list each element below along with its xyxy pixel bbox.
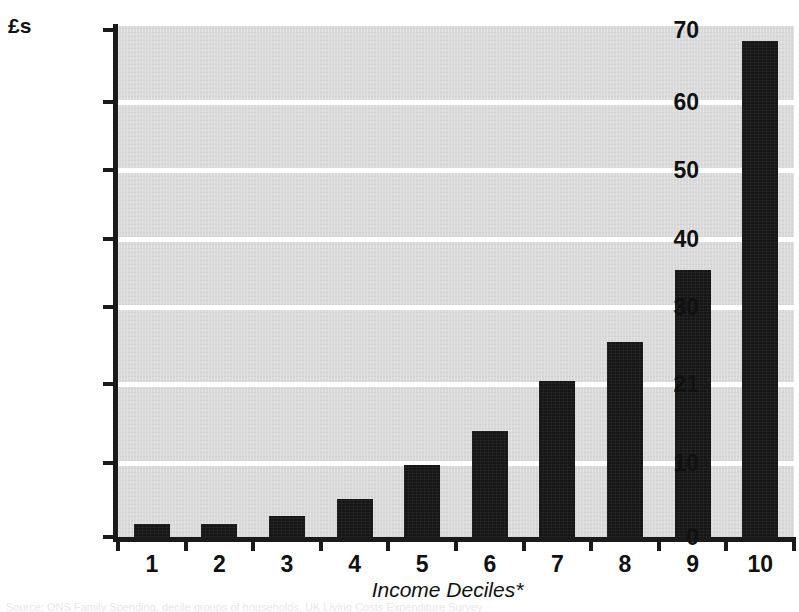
bar-decile-4	[337, 499, 373, 537]
x-tick-2	[251, 537, 255, 551]
y-axis-unit-label: £s	[8, 14, 31, 38]
bar-decile-6	[472, 431, 508, 537]
x-axis-title: Income Deciles*	[0, 578, 799, 602]
x-tick-label-2: 2	[213, 551, 226, 578]
y-tick-label-21: 21	[673, 371, 699, 398]
bar-decile-7	[539, 381, 575, 537]
x-tick-4	[386, 537, 390, 551]
y-tick-0	[103, 535, 115, 539]
y-tick-40	[103, 237, 115, 241]
y-tick-60	[103, 100, 115, 104]
y-tick-70	[103, 28, 115, 32]
bar-decile-3	[269, 516, 305, 537]
x-tick-label-7: 7	[551, 551, 564, 578]
x-tick-label-9: 9	[686, 551, 699, 578]
x-tick-0	[116, 537, 120, 551]
x-tick-6	[522, 537, 526, 551]
bar-decile-8	[607, 342, 643, 537]
x-tick-label-5: 5	[416, 551, 429, 578]
x-tick-8	[657, 537, 661, 551]
y-tick-label-0: 0	[686, 524, 699, 551]
bar-chart: £s 706050403021100 12345678910 Income De…	[0, 0, 799, 612]
x-tick-label-8: 8	[619, 551, 632, 578]
y-tick-21	[103, 382, 115, 386]
x-tick-5	[454, 537, 458, 551]
bar-decile-2	[201, 524, 237, 537]
y-tick-label-50: 50	[673, 157, 699, 184]
x-tick-label-1: 1	[145, 551, 158, 578]
y-tick-50	[103, 168, 115, 172]
x-tick-label-4: 4	[348, 551, 361, 578]
y-tick-label-30: 30	[673, 294, 699, 321]
y-tick-30	[103, 305, 115, 309]
x-tick-10	[792, 537, 796, 551]
y-tick-10	[103, 461, 115, 465]
footnote-cropped: Source: ONS Family Spending, decile grou…	[0, 603, 799, 612]
x-tick-label-3: 3	[281, 551, 294, 578]
y-tick-label-40: 40	[673, 226, 699, 253]
x-tick-9	[724, 537, 728, 551]
x-tick-label-6: 6	[483, 551, 496, 578]
bar-decile-10	[742, 41, 778, 537]
y-tick-label-10: 10	[673, 450, 699, 477]
y-tick-label-60: 60	[673, 89, 699, 116]
y-tick-label-70: 70	[673, 17, 699, 44]
x-axis-title-text: Income Deciles*	[372, 578, 524, 602]
x-tick-3	[319, 537, 323, 551]
x-tick-label-10: 10	[747, 551, 773, 578]
bar-decile-1	[134, 524, 170, 537]
x-tick-1	[184, 537, 188, 551]
x-tick-7	[589, 537, 593, 551]
bar-decile-5	[404, 465, 440, 537]
